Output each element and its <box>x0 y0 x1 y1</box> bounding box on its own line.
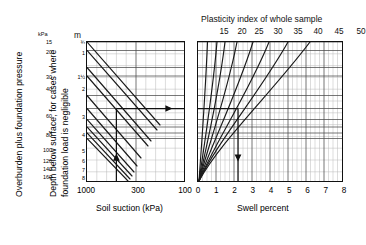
m-scale: ¾11½2345678 <box>72 28 86 190</box>
m-tick-1: 1 <box>82 51 85 56</box>
swell-percent-axis-title: Swell percent <box>237 203 289 213</box>
kpa-tick-15: 15 <box>46 40 52 45</box>
m-tick-3: 3 <box>82 115 85 120</box>
kpa-tick-140: 140 <box>43 167 52 172</box>
swell-percent-tick-4: 4 <box>269 186 274 195</box>
swell-percent-tick-3: 3 <box>250 186 255 195</box>
kpa-tick-30: 30 <box>46 75 52 80</box>
swell-percent-tick-1: 1 <box>214 186 219 195</box>
swell-percent-tick-7: 7 <box>323 186 328 195</box>
m-tick-6: 6 <box>82 159 85 164</box>
pi-label-25: 25 <box>254 27 263 36</box>
pi-label-20: 20 <box>237 27 246 36</box>
soil-suction-panel <box>86 41 185 182</box>
m-tick-1½: 1½ <box>78 75 86 80</box>
swell-percent-plot <box>198 42 342 181</box>
construction-lines <box>114 106 184 181</box>
soil-suction-tick-300: 300 <box>131 186 145 195</box>
overburden-pressure-caption: Overburden plus foundation pressure <box>14 52 24 197</box>
depth-line-7m <box>87 133 130 179</box>
m-tick-¾: ¾ <box>81 40 86 45</box>
swell-percent-tick-2: 2 <box>232 186 237 195</box>
m-tick-4: 4 <box>82 133 85 138</box>
kpa-tick-40: 40 <box>46 87 52 92</box>
m-tick-7: 7 <box>82 168 85 173</box>
pi-label-50: 50 <box>356 27 365 36</box>
swell-percent-tick-0: 0 <box>196 186 201 195</box>
transfer-arrowhead <box>166 106 171 111</box>
soil-suction-tick-1000: 1000 <box>77 186 95 195</box>
depth-line-2m <box>87 76 148 146</box>
m-tick-2: 2 <box>82 87 85 92</box>
m-tick-8: 8 <box>82 176 85 181</box>
m-tick-5: 5 <box>82 149 85 154</box>
kpa-tick-60: 60 <box>46 114 52 119</box>
soil-suction-tick-100: 100 <box>178 186 192 195</box>
swell-exit-arrowhead <box>236 155 241 160</box>
swell-percent-tick-6: 6 <box>305 186 310 195</box>
kpa-tick-160: 160 <box>43 175 52 180</box>
swell-percent-tick-5: 5 <box>287 186 292 195</box>
kpa-scale: 152030406080100120140160 <box>36 28 52 190</box>
kpa-tick-120: 120 <box>43 159 52 164</box>
kpa-tick-100: 100 <box>43 148 52 153</box>
depth-caption-line2: foundation load is negligible <box>60 88 70 197</box>
pi-label-40: 40 <box>313 27 322 36</box>
soil-suction-axis-title: Soil suction (kPa) <box>96 203 163 213</box>
depth-line-1m <box>87 51 157 131</box>
swell-percent-tick-8: 8 <box>342 186 347 195</box>
kpa-tick-80: 80 <box>46 133 52 138</box>
soil-suction-plot <box>87 42 184 181</box>
pi-label-35: 35 <box>293 27 302 36</box>
pi-label-15: 15 <box>219 27 228 36</box>
kpa-tick-20: 20 <box>46 50 52 55</box>
swell-percent-panel <box>197 41 343 182</box>
pi-label-45: 45 <box>334 27 343 36</box>
plasticity-index-title: Plasticity index of whole sample <box>201 14 322 24</box>
pi-label-30: 30 <box>273 27 282 36</box>
suction-entry-arrowhead <box>114 155 119 160</box>
